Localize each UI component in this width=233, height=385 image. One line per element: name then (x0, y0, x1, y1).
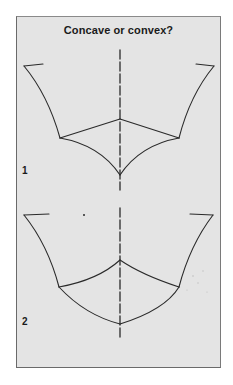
figure-2-upper-right-edge (120, 260, 179, 287)
figure-2-upper-left-edge (59, 260, 120, 287)
figure-2-top-left-tick (24, 214, 49, 215)
figure-1-top-right-tick (196, 64, 214, 66)
figure-1-upper-left-edge (60, 119, 120, 138)
figure-2-right-edge (179, 215, 213, 287)
speckle-marks (186, 270, 207, 292)
figure-2-lower-left-edge (59, 287, 120, 324)
figure-2-top-right-tick (190, 214, 213, 215)
figure-2-lower-right-edge (120, 287, 179, 324)
figure-1-label: 1 (22, 165, 28, 176)
figure-2-dot (83, 214, 85, 216)
diagram-figures (0, 0, 233, 385)
figure-1 (24, 50, 214, 190)
figure-1-lower-left-edge (60, 138, 120, 175)
figure-2-left-edge (24, 215, 59, 287)
figure-1-left-edge (24, 66, 60, 138)
figure-2 (24, 208, 213, 338)
figure-1-upper-right-edge (120, 119, 179, 138)
figure-1-top-left-tick (24, 64, 43, 66)
figure-1-right-edge (179, 66, 214, 138)
figure-2-label: 2 (22, 316, 28, 327)
figure-1-lower-right-edge (120, 138, 179, 175)
